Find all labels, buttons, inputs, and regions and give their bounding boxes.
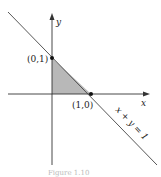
x-axis-arrow-icon bbox=[143, 92, 150, 97]
diagram: y x (0,1) (1,0) x + y = 1 Figure 1.10 bbox=[0, 0, 161, 177]
y-axis-label: y bbox=[55, 17, 62, 27]
y-axis-arrow-icon bbox=[50, 13, 55, 20]
point-a-label: (0,1) bbox=[27, 54, 48, 64]
x-axis-label: x bbox=[141, 98, 146, 108]
line-x-plus-y-eq-1 bbox=[8, 12, 157, 165]
point-0-1 bbox=[50, 56, 54, 60]
line-label: x + y = 1 bbox=[114, 104, 151, 141]
point-1-0 bbox=[89, 92, 93, 96]
point-b-label: (1,0) bbox=[72, 100, 93, 110]
figure-caption: Figure 1.10 bbox=[48, 169, 89, 177]
